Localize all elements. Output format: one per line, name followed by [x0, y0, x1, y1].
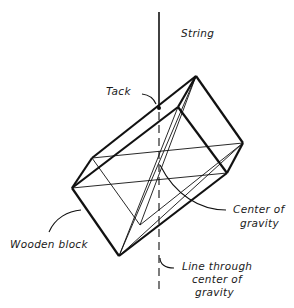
tack-leader [142, 94, 156, 104]
line-through-cog-label: Line through center of gravity [178, 260, 268, 296]
tack-label: Tack [106, 85, 131, 97]
string-label: String [181, 27, 214, 39]
line-through-line3: gravity [195, 286, 285, 298]
cog-label-line1: Center of [233, 203, 283, 215]
line-through-line1: Line through [182, 260, 272, 272]
block-leader [49, 210, 81, 232]
wooden-block-label: Wooden block [10, 238, 88, 250]
cog-leader [160, 165, 226, 210]
cog-label-line2: gravity [240, 217, 290, 229]
center-of-gravity-label: Center of gravity [230, 203, 280, 227]
construction-lines [72, 76, 243, 256]
line-through-line2: center of [192, 273, 282, 285]
plumb-leader [160, 258, 174, 268]
